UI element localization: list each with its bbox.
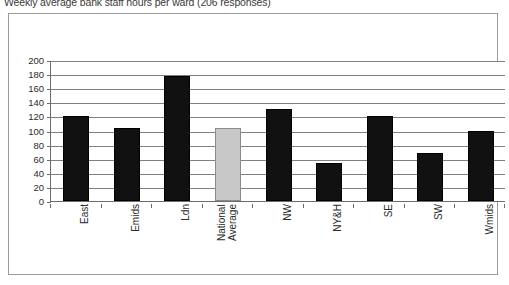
y-axis-tick-label: 100 (28, 127, 44, 137)
x-axis-label-slot: NY&H (303, 204, 354, 276)
x-axis-tick-label: Emids (130, 204, 141, 232)
x-axis-label-slot: Wmids (454, 204, 505, 276)
x-axis-label-slot: SE (353, 204, 404, 276)
x-axis-label-slot: NW (252, 204, 303, 276)
y-axis-tick (47, 103, 51, 104)
bar-emids (114, 128, 140, 201)
y-axis-tick (47, 188, 51, 189)
page-title: Weekly average bank staff hours per ward… (4, 0, 271, 8)
x-axis-tick-label: National Average (216, 204, 238, 241)
x-axis-label-slot: SW (404, 204, 455, 276)
x-axis-label-slot: Ldn (151, 204, 202, 276)
bar-wmids (468, 131, 494, 202)
x-axis-tick-label: East (79, 204, 90, 224)
gridline (51, 103, 505, 104)
y-axis-tick (47, 174, 51, 175)
bar-se (367, 116, 393, 201)
bar-ldn (164, 76, 190, 201)
y-axis-tick (47, 146, 51, 147)
y-axis-tick-label: 0 (39, 197, 44, 207)
bar-sw (417, 153, 443, 201)
y-axis-tick (47, 89, 51, 90)
plot-area (50, 61, 505, 202)
x-axis-tick-label: Ldn (180, 204, 191, 221)
x-axis-tick-label: NY&H (332, 204, 343, 232)
gridline (51, 61, 505, 62)
y-axis-tick-label: 120 (28, 112, 44, 122)
y-axis-tick (47, 75, 51, 76)
x-axis-labels: EastEmidsLdnNational AverageNWNY&HSESWWm… (50, 204, 505, 276)
x-axis-tick-label: Wmids (484, 204, 495, 235)
x-axis-tick-label: NW (282, 204, 293, 221)
x-axis-tick-label: SE (383, 204, 394, 217)
y-axis-tick-label: 60 (33, 155, 44, 165)
y-axis-tick (47, 61, 51, 62)
x-axis-label-slot: National Average (202, 204, 253, 276)
y-axis-tick-label: 180 (28, 70, 44, 80)
bar-east (63, 116, 89, 201)
gridline (51, 75, 505, 76)
y-axis-tick-label: 40 (33, 169, 44, 179)
y-axis-tick-label: 80 (33, 141, 44, 151)
bar-national-average (215, 128, 241, 201)
y-axis-tick-label: 140 (28, 98, 44, 108)
y-axis-tick-label: 20 (33, 183, 44, 193)
chart-page: Weekly average bank staff hours per ward… (0, 0, 509, 285)
x-axis-label-slot: Emids (101, 204, 152, 276)
bar-nw (266, 109, 292, 201)
x-axis-tick-label: SW (433, 204, 444, 220)
gridline (51, 89, 505, 90)
y-axis-tick (47, 160, 51, 161)
y-axis-tick-label: 160 (28, 84, 44, 94)
y-axis-tick-label: 200 (28, 56, 44, 66)
y-axis-tick (47, 132, 51, 133)
bar-ny-h (316, 163, 342, 201)
y-axis-tick (47, 117, 51, 118)
x-axis-label-slot: East (50, 204, 101, 276)
y-axis-labels: 200180160140120100806040200 (17, 61, 44, 202)
chart-frame: 200180160140120100806040200 EastEmidsLdn… (8, 13, 498, 275)
y-axis-tick (47, 202, 51, 203)
